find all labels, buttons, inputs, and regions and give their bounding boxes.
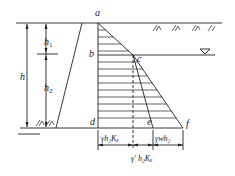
point-f-label: f (186, 118, 190, 129)
label-gamma-h1-ka: γh₁Kₐ (101, 134, 119, 143)
point-c-label: c (137, 53, 142, 64)
label-gamma-w-h2: γwh₂ (155, 134, 170, 143)
retaining-wall (56, 23, 98, 128)
height-h-label: h (20, 71, 25, 82)
point-e-label: e (147, 116, 152, 127)
pressure-hatching (98, 30, 176, 118)
earth-pressure-diagram: a b c d e f h h1 h2 γh₁Kₐ γwh₂ γ′ h₂Kₐ (0, 0, 235, 176)
point-d-label: d (90, 116, 96, 127)
pressure-outline-acf (98, 23, 183, 128)
soil-hatch-icon (153, 25, 215, 31)
water-level-triangle-icon (200, 49, 210, 54)
height-h1-label: h1 (44, 36, 53, 49)
point-b-label: b (89, 48, 94, 59)
height-h2-label: h2 (44, 82, 53, 95)
label-gamma-prime-h2-ka: γ′ h₂Kₐ (131, 154, 153, 163)
point-a-label: a (95, 7, 100, 18)
